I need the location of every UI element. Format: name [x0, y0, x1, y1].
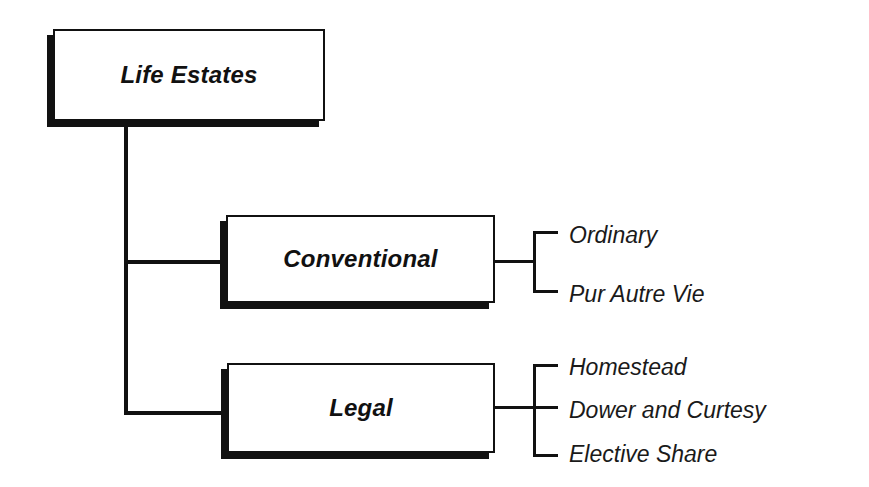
branch-node-label: Legal [329, 394, 393, 422]
conventional-out-connector [495, 260, 535, 263]
trunk-connector [124, 126, 128, 415]
conventional-bracket-spine [533, 231, 536, 293]
root-node-label: Life Estates [120, 61, 257, 89]
branch-node-conventional: Conventional [226, 215, 495, 303]
bracket-tick [533, 454, 558, 457]
bracket-tick [533, 231, 558, 234]
root-node-life-estates: Life Estates [53, 29, 325, 121]
leaf-ordinary: Ordinary [569, 224, 657, 247]
bracket-tick [533, 364, 558, 367]
leaf-pur-autre-vie: Pur Autre Vie [569, 283, 705, 306]
bracket-tick [533, 406, 558, 409]
leaf-elective-share: Elective Share [569, 443, 717, 466]
legal-out-connector [495, 406, 535, 409]
branch-node-legal: Legal [227, 363, 495, 453]
connector-to-conventional [124, 260, 222, 264]
connector-to-legal [124, 411, 222, 415]
bracket-tick [533, 290, 558, 293]
branch-node-label: Conventional [283, 245, 437, 273]
leaf-homestead: Homestead [569, 356, 687, 379]
legal-bracket-spine [533, 364, 536, 457]
leaf-dower-and-curtesy: Dower and Curtesy [569, 399, 766, 422]
